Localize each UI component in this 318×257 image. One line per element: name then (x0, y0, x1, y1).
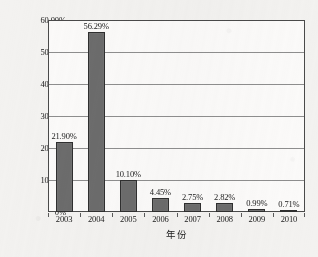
bar-value-label: 0.71% (278, 199, 299, 209)
bar[interactable] (216, 203, 233, 212)
bar-value-label: 2.75% (182, 192, 203, 202)
bar[interactable] (88, 32, 105, 212)
x-axis-tick-label: 2009 (241, 214, 273, 225)
bar-group: 2.82% (209, 20, 241, 212)
bar-group: 21.90% (48, 20, 80, 212)
x-axis-tick-label: 2003 (48, 214, 80, 225)
bar-value-label: 56.29% (84, 21, 109, 31)
bar[interactable] (120, 180, 137, 212)
bar[interactable] (184, 203, 201, 212)
bar-group: 0.99% (241, 20, 273, 212)
bar-group: 2.75% (177, 20, 209, 212)
x-axis-tick-label: 2004 (80, 214, 112, 225)
bar-group: 4.45% (144, 20, 176, 212)
bar-group: 56.29% (80, 20, 112, 212)
bar-value-label: 4.45% (150, 187, 171, 197)
bar-value-label: 10.10% (116, 169, 141, 179)
bar-value-label: 0.99% (246, 198, 267, 208)
bar-value-label: 2.82% (214, 192, 235, 202)
x-axis-tick-label: 2007 (177, 214, 209, 225)
bar[interactable] (56, 142, 73, 212)
bar[interactable] (248, 209, 265, 212)
bar-chart: 60.00%50.00%40.00%30.00%20.00%10.00%0% 2… (0, 0, 318, 257)
bar-group: 10.10% (112, 20, 144, 212)
x-axis-tick-label: 2008 (209, 214, 241, 225)
x-axis-tick-label: 2005 (112, 214, 144, 225)
x-axis-title: 年份 (48, 229, 305, 241)
bars-layer: 21.90%56.29%10.10%4.45%2.75%2.82%0.99%0.… (48, 20, 305, 212)
x-axis-tick-label: 2006 (144, 214, 176, 225)
bar-group: 0.71% (273, 20, 305, 212)
bar[interactable] (152, 198, 169, 212)
bar-value-label: 21.90% (51, 131, 76, 141)
bar[interactable] (280, 210, 297, 212)
x-axis-tick-label: 2010 (273, 214, 305, 225)
x-axis-labels: 20032004200520062007200820092010 (48, 214, 305, 225)
